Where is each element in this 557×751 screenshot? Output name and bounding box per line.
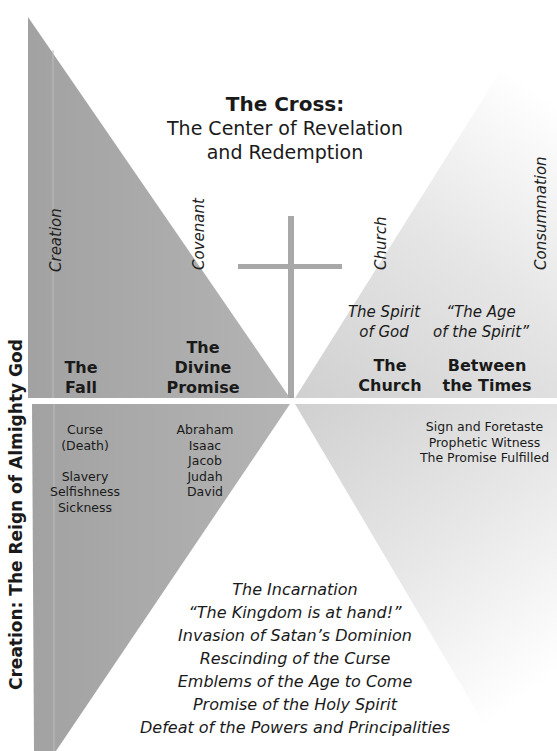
heading-line: the Times [432,376,542,396]
list-item: Selfishness [40,484,130,500]
diagram-title: The Cross: The Center of Revelation and … [150,92,420,164]
list-item: Defeat of the Powers and Principalities [100,716,490,739]
title-line-2: The Center of Revelation [150,116,420,140]
list-item: Slavery [40,469,130,485]
list-spacer [40,453,130,469]
title-line-3: and Redemption [150,140,420,164]
heading-line: The [158,338,248,358]
heading-the-church: The Church [350,356,430,396]
list-item: Emblems of the Age to Come [100,670,490,693]
cross-horizontal [238,264,342,269]
list-item: Isaac [160,438,250,454]
list-item: Abraham [160,422,250,438]
church-role-list: Sign and Foretaste Prophetic Witness The… [412,419,557,466]
era-label-church: Church [372,217,390,270]
list-item: Prophetic Witness [412,435,557,451]
list-item: Jacob [160,453,250,469]
list-item: (Death) [40,438,130,454]
fall-consequences-list: Curse (Death) Slavery Selfishness Sickne… [40,422,130,515]
heading-line: Promise [158,378,248,398]
italic-line: of the Spirit” [422,322,540,342]
heading-the-fall: The Fall [50,358,112,398]
heading-line: Fall [50,378,112,398]
list-item: The Promise Fulfilled [412,450,557,466]
heading-divine-promise: The Divine Promise [158,338,248,398]
heading-line: Divine [158,358,248,378]
list-item: Rescinding of the Curse [100,647,490,670]
italic-line: “The Age [422,302,540,322]
promise-lineage-list: Abraham Isaac Jacob Judah David [160,422,250,500]
list-item: Promise of the Holy Spirit [100,693,490,716]
list-item: David [160,484,250,500]
list-item: Sign and Foretaste [412,419,557,435]
heading-between-the-times: Between the Times [432,356,542,396]
heading-line: Church [350,376,430,396]
incarnation-list: The Incarnation “The Kingdom is at hand!… [100,578,490,739]
era-label-covenant: Covenant [190,198,208,270]
list-item: Judah [160,469,250,485]
era-label-creation: Creation [47,208,65,272]
era-label-consummation: Consummation [532,156,550,270]
list-item: The Incarnation [100,578,490,601]
list-item: Invasion of Satan’s Dominion [100,624,490,647]
list-item: Curse [40,422,130,438]
heading-line: Between [432,356,542,376]
title-line-1: The Cross: [150,92,420,116]
heading-line: The [350,356,430,376]
age-of-the-spirit: “The Age of the Spirit” [422,302,540,342]
list-item: Sickness [40,500,130,516]
cross-vertical [288,216,294,398]
list-item: “The Kingdom is at hand!” [100,601,490,624]
side-label: Creation: The Reign of Almighty God [6,339,26,690]
heading-line: The [50,358,112,378]
italic-line: of God [338,322,430,342]
italic-line: The Spirit [338,302,430,322]
spirit-of-god: The Spirit of God [338,302,430,342]
